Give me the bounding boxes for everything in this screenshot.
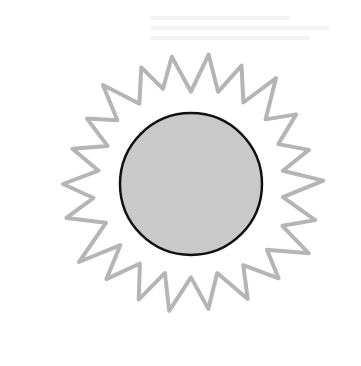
sun-illustration — [0, 0, 361, 366]
sun-disc — [120, 113, 262, 255]
